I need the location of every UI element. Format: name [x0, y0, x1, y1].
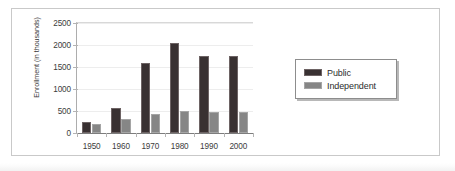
x-tick-mark: [253, 133, 254, 137]
x-tick-label-2000: 2000: [229, 142, 247, 151]
y-tick-label: 2500: [53, 19, 71, 28]
bar-group: [77, 23, 106, 133]
bar-independent-1990: [209, 112, 219, 133]
y-tick-label: 2000: [53, 41, 71, 50]
bar-group: [194, 23, 223, 133]
bar-independent-2000: [239, 112, 249, 133]
x-tick-mark: [194, 133, 195, 137]
bar-group: [224, 23, 253, 133]
y-tick-label: 1000: [53, 85, 71, 94]
x-tick-label-1990: 1990: [200, 142, 218, 151]
y-tick-label: 500: [58, 107, 71, 116]
bar-public-1960: [111, 108, 121, 133]
bar-public-1950: [82, 122, 92, 133]
plot-inner: 0500100015002000250019501960197019801990…: [77, 23, 253, 133]
x-tick-label-1950: 1950: [83, 142, 101, 151]
chart-legend: Public Independent: [295, 59, 397, 99]
x-tick-label-1970: 1970: [141, 142, 159, 151]
bar-public-1980: [170, 43, 180, 133]
scan-artifact-strip: [0, 163, 455, 171]
bar-public-1970: [141, 63, 151, 133]
bar-group: [106, 23, 135, 133]
x-tick-mark: [224, 133, 225, 137]
y-tick-label: 1500: [53, 63, 71, 72]
bar-group: [136, 23, 165, 133]
x-tick-mark: [77, 133, 78, 137]
bar-independent-1980: [180, 111, 190, 133]
legend-item-independent: Independent: [304, 79, 389, 92]
bar-independent-1970: [151, 114, 161, 133]
x-tick-mark: [165, 133, 166, 137]
plot-area: 0500100015002000250019501960197019801990…: [76, 22, 253, 134]
legend-label-independent: Independent: [327, 81, 376, 91]
x-tick-mark: [136, 133, 137, 137]
chart-figure-frame: Enrollment (in thousands) 05001000150020…: [11, 8, 440, 156]
bar-independent-1960: [121, 119, 131, 133]
x-tick-mark: [106, 133, 107, 137]
y-tick-label: 0: [67, 129, 71, 138]
public-color-swatch: [304, 69, 322, 76]
bar-public-2000: [229, 56, 239, 133]
x-tick-label-1960: 1960: [112, 142, 130, 151]
y-axis-title: Enrollment (in thousands): [32, 0, 41, 118]
bar-independent-1950: [92, 124, 102, 133]
legend-label-public: Public: [327, 68, 351, 78]
legend-item-public: Public: [304, 66, 389, 79]
x-tick-label-1980: 1980: [171, 142, 189, 151]
bar-public-1990: [199, 56, 209, 133]
independent-color-swatch: [304, 82, 322, 89]
bar-group: [165, 23, 194, 133]
